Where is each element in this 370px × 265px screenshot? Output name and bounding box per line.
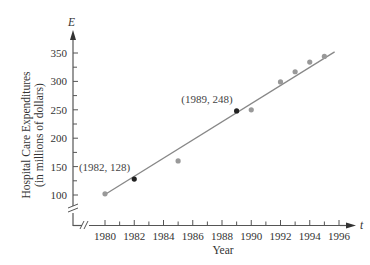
x-tick-label: 1988 xyxy=(211,230,234,242)
x-tick-label: 1986 xyxy=(182,230,205,242)
svg-text:Hospital Care Expenditures: Hospital Care Expenditures xyxy=(20,71,33,199)
plot-area xyxy=(102,52,334,197)
regression-line xyxy=(105,52,335,195)
data-point xyxy=(307,59,312,64)
y-axis-title: Hospital Care Expenditures (in millions … xyxy=(20,71,46,199)
highlighted-point xyxy=(132,176,137,181)
x-tick-label: 1992 xyxy=(270,230,292,242)
y-tick-label: 200 xyxy=(51,132,68,144)
x-tick-label: 1980 xyxy=(94,230,117,242)
y-axis-variable: E xyxy=(67,16,75,28)
data-point xyxy=(102,191,107,196)
hospital-expenditures-chart: E 100150200250300350 t 19801982198419861… xyxy=(0,0,370,265)
point-annotation: (1989, 248) xyxy=(181,93,233,106)
x-tick-label: 1996 xyxy=(328,230,351,242)
y-tick-label: 100 xyxy=(51,189,68,201)
y-tick-label: 350 xyxy=(51,47,68,59)
svg-text:(in millions of dollars): (in millions of dollars) xyxy=(33,83,46,187)
x-axis-arrow-icon xyxy=(346,223,356,229)
annotations: (1982, 128)(1989, 248) xyxy=(79,93,233,174)
x-axis-variable: t xyxy=(360,219,364,231)
y-tick-label: 150 xyxy=(51,161,68,173)
x-axis: t 198019821984198619881990199219941996 xyxy=(73,219,364,242)
y-axis: E 100150200250300350 xyxy=(51,16,79,226)
x-axis-title: Year xyxy=(212,244,233,256)
highlighted-point xyxy=(234,108,239,113)
x-tick-label: 1994 xyxy=(299,230,322,242)
data-point xyxy=(322,54,327,59)
y-tick-label: 250 xyxy=(51,104,68,116)
x-tick-label: 1984 xyxy=(153,230,176,242)
data-point xyxy=(176,158,181,163)
x-tick-label: 1982 xyxy=(123,230,145,242)
y-axis-arrow-icon xyxy=(70,30,76,40)
data-point xyxy=(293,69,298,74)
y-tick-label: 300 xyxy=(51,75,68,87)
data-point xyxy=(249,107,254,112)
point-annotation: (1982, 128) xyxy=(79,161,131,174)
x-tick-label: 1990 xyxy=(240,230,263,242)
data-point xyxy=(278,79,283,84)
